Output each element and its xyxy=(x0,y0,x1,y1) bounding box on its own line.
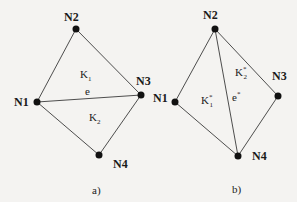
diagram-b: N1 N2 N3 N4 K*1 K*2 e* b) xyxy=(153,8,287,196)
element-label-k2-star: K*2 xyxy=(235,65,247,81)
element-label-k1: K1 xyxy=(80,68,92,83)
node-label-n2: N2 xyxy=(64,10,79,24)
mesh-diagrams: N1 N2 N3 N4 K1 K2 e a) N1 N2 N3 N4 K*1 K… xyxy=(0,0,297,202)
edge-n1-n2 xyxy=(37,29,76,102)
edge-label-e: e xyxy=(85,85,90,97)
node-label-n2: N2 xyxy=(203,8,218,22)
node-label-n3: N3 xyxy=(272,69,287,83)
edge-n1-n4 xyxy=(175,102,238,156)
node-n2 xyxy=(212,26,219,33)
caption-a: a) xyxy=(92,184,101,197)
edge-n3-n4 xyxy=(238,96,278,156)
diagram-a: N1 N2 N3 N4 K1 K2 e a) xyxy=(14,10,151,197)
node-n3 xyxy=(138,92,145,99)
edge-n2-n3 xyxy=(215,29,278,96)
edge-label-e-star: e* xyxy=(232,90,241,103)
element-label-k2: K2 xyxy=(89,111,101,126)
node-label-n3: N3 xyxy=(136,74,151,88)
edge-n1-n2 xyxy=(175,29,215,102)
node-n4 xyxy=(96,152,103,159)
edge-n3-n4 xyxy=(99,95,141,155)
node-n1 xyxy=(34,99,41,106)
node-label-n1: N1 xyxy=(14,95,29,109)
node-n1 xyxy=(172,99,179,106)
node-label-n1: N1 xyxy=(153,91,168,105)
edge-n1-n4 xyxy=(37,102,99,155)
element-label-k1-star: K*1 xyxy=(201,93,213,109)
node-label-n4: N4 xyxy=(252,149,267,163)
node-n2 xyxy=(73,26,80,33)
node-n3 xyxy=(275,93,282,100)
caption-b: b) xyxy=(232,183,242,196)
node-label-n4: N4 xyxy=(113,157,128,171)
node-n4 xyxy=(235,153,242,160)
